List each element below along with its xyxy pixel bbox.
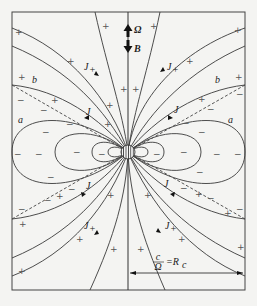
svg-text:+: + (89, 64, 96, 75)
current-label-jminus-mr: J (174, 104, 179, 115)
svg-text:+: + (224, 208, 232, 218)
svg-text:+: + (120, 84, 128, 94)
svg-text:+: + (110, 244, 118, 254)
region-label-a-right: a (228, 114, 233, 125)
light-cylinder-dimension: c Ω =R c (130, 251, 243, 275)
svg-text:+: + (144, 190, 152, 200)
svg-text:+: + (18, 266, 26, 276)
svg-text:+: + (106, 100, 114, 110)
svg-text:+: + (235, 72, 243, 82)
svg-text:J: J (174, 104, 179, 115)
svg-text:−: − (47, 172, 55, 182)
svg-text:+: + (15, 27, 23, 37)
svg-text:c: c (182, 259, 187, 270)
svg-text:−: − (182, 118, 190, 128)
svg-text:+: + (178, 234, 186, 244)
svg-text:+: + (67, 56, 75, 66)
svg-text:−: − (236, 89, 244, 99)
svg-text:Ω: Ω (154, 261, 161, 272)
region-label-a-left: a (18, 114, 23, 125)
current-label-jminus-ll: J (86, 180, 91, 191)
svg-text:J: J (164, 178, 169, 189)
svg-text:+: + (150, 21, 158, 31)
svg-text:+: + (102, 21, 110, 31)
svg-text:−: − (180, 183, 188, 193)
svg-text:−: − (40, 105, 48, 115)
b-field-label: B (133, 43, 141, 54)
svg-text:−: − (73, 147, 81, 157)
svg-text:−: − (207, 104, 215, 114)
svg-text:−: − (207, 193, 215, 203)
current-label-jminus-lr: J (164, 178, 169, 189)
omega-label: Ω (134, 24, 142, 35)
svg-text:+: + (19, 219, 27, 229)
svg-text:−: − (213, 149, 221, 159)
svg-text:−: − (198, 127, 206, 137)
svg-text:−: − (42, 127, 50, 137)
svg-text:+: + (132, 84, 140, 94)
svg-text:−: − (18, 204, 26, 214)
region-label-b-left: b (32, 74, 37, 85)
svg-text:−: − (17, 95, 25, 105)
svg-text:−: − (196, 167, 204, 177)
svg-text:−: − (234, 149, 242, 159)
svg-text:+: + (104, 119, 112, 129)
svg-text:+: + (56, 191, 64, 201)
svg-text:+: + (170, 223, 177, 234)
svg-text:+: + (198, 94, 206, 104)
svg-text:+: + (137, 244, 145, 254)
region-label-b-right: b (215, 74, 220, 85)
svg-text:+: + (18, 72, 26, 82)
svg-text:+: + (51, 95, 59, 105)
svg-text:−: − (14, 149, 22, 159)
current-label-jplus-lr: J + (165, 220, 177, 234)
diagram-canvas: Ω B J + J + J J J J J + J + (0, 0, 257, 306)
svg-text:+: + (195, 189, 203, 199)
svg-text:+: + (186, 56, 194, 66)
current-label-jplus-ul: J + (84, 61, 96, 75)
svg-text:+: + (107, 190, 115, 200)
svg-text:−: − (68, 184, 76, 194)
current-label-jminus-ml: J (86, 106, 91, 117)
svg-text:+: + (172, 64, 179, 75)
b-field-arrow (124, 40, 133, 53)
svg-text:+: + (76, 234, 84, 244)
omega-arrow (124, 24, 133, 37)
svg-text:+: + (237, 242, 245, 252)
svg-text:−: − (44, 195, 52, 205)
svg-text:+: + (89, 223, 96, 234)
svg-text:=R: =R (166, 256, 179, 267)
svg-text:−: − (66, 119, 74, 129)
svg-text:−: − (180, 147, 188, 157)
svg-text:−: − (153, 149, 161, 159)
svg-text:J: J (86, 106, 91, 117)
svg-text:+: + (234, 25, 242, 35)
magnetosphere-diagram: Ω B J + J + J J J J J + J + (0, 0, 257, 306)
svg-text:−: − (98, 149, 106, 159)
svg-text:−: − (236, 204, 244, 214)
svg-text:−: − (35, 149, 43, 159)
neutron-star (121, 145, 135, 159)
svg-text:J: J (86, 180, 91, 191)
current-label-jplus-ll: J + (84, 220, 96, 234)
current-label-jplus-ur: J + (167, 61, 179, 75)
